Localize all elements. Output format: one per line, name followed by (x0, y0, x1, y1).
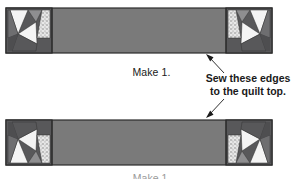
sew-instruction-note: Sew these edges to the quilt top. (196, 72, 300, 97)
bottom-right-corner-block (226, 120, 272, 165)
top-left-corner-block (6, 8, 52, 53)
top-right-corner-block (226, 8, 272, 53)
bottom-clipped-make-label: Make 1. (0, 172, 303, 179)
bottom-border-strip (6, 120, 272, 165)
bottom-left-corner-block (6, 120, 52, 165)
sew-instruction-line-1: Sew these edges (196, 72, 300, 85)
top-border-strip (6, 8, 272, 53)
diagram-canvas: Make 1. Sew these edges to the quilt top… (0, 0, 303, 179)
sew-instruction-line-2: to the quilt top. (196, 85, 300, 98)
arrow-to-bottom-strip (206, 99, 224, 118)
